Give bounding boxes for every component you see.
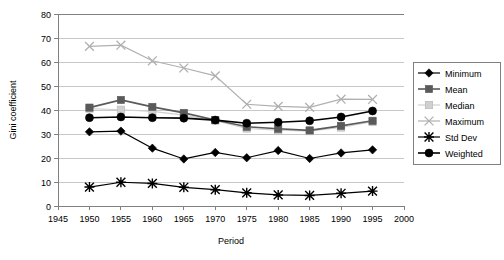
legend-swatch-marker	[425, 149, 433, 157]
x-tick-label: 1975	[237, 214, 257, 224]
marker-circle	[180, 114, 188, 122]
data-point	[336, 188, 346, 198]
legend-swatch-marker	[424, 132, 434, 142]
data-point	[179, 182, 189, 192]
legend-item-label: Std Dev	[445, 133, 478, 143]
marker-diamond	[180, 155, 188, 163]
marker-square	[425, 85, 432, 92]
marker-square	[306, 127, 313, 134]
series-std-dev	[84, 177, 377, 200]
data-point	[117, 96, 124, 103]
x-tick-label: 1985	[300, 214, 320, 224]
x-tick-label: 2000	[394, 214, 414, 224]
data-point	[180, 155, 188, 163]
marker-circle	[85, 114, 93, 122]
legend-item-label: Median	[445, 101, 475, 111]
data-point	[211, 116, 219, 124]
x-tick-label: 1980	[268, 214, 288, 224]
y-tick-label: 0	[46, 202, 51, 212]
data-point	[117, 106, 124, 113]
marker-circle	[337, 113, 345, 121]
x-axis-ticks: 1945195019551960196519701975198019851990…	[48, 206, 414, 224]
data-point	[180, 114, 188, 122]
marker-circle	[243, 119, 251, 127]
data-point	[148, 114, 156, 122]
marker-diamond	[274, 146, 282, 154]
x-axis-title: Period	[218, 236, 244, 246]
y-tick-label: 60	[41, 58, 51, 68]
chart-container: 0102030405060708019451950195519601965197…	[0, 0, 504, 260]
data-point	[368, 186, 378, 196]
marker-star	[305, 190, 315, 200]
marker-star	[336, 188, 346, 198]
x-tick-label: 1950	[79, 214, 99, 224]
y-tick-label: 30	[41, 130, 51, 140]
data-point	[242, 188, 252, 198]
y-gridlines	[58, 14, 404, 206]
marker-circle	[369, 107, 377, 115]
legend-item-label: Maximum	[445, 117, 484, 127]
legend-item-label: Mean	[445, 85, 468, 95]
marker-diamond	[305, 154, 313, 162]
y-tick-label: 40	[41, 106, 51, 116]
data-point	[117, 113, 125, 121]
series-median	[86, 105, 376, 135]
marker-star	[116, 177, 126, 187]
marker-circle	[274, 118, 282, 126]
data-point	[86, 104, 93, 111]
data-point	[274, 118, 282, 126]
x-tick-label: 1990	[331, 214, 351, 224]
data-point	[243, 154, 251, 162]
marker-cross	[179, 64, 188, 73]
x-tick-label: 1960	[142, 214, 162, 224]
marker-circle	[148, 114, 156, 122]
marker-diamond	[211, 148, 219, 156]
y-tick-label: 10	[41, 178, 51, 188]
x-tick-label: 1965	[174, 214, 194, 224]
data-point	[368, 146, 376, 154]
data-point	[337, 113, 345, 121]
data-point	[305, 190, 315, 200]
marker-circle	[425, 149, 433, 157]
x-tick-label: 1945	[48, 214, 68, 224]
marker-square	[86, 104, 93, 111]
x-tick-label: 1970	[205, 214, 225, 224]
marker-circle	[117, 113, 125, 121]
marker-square-light	[425, 101, 432, 108]
data-point	[84, 182, 94, 192]
data-point	[148, 56, 157, 65]
data-point	[369, 117, 376, 124]
data-point	[337, 149, 345, 157]
y-axis-title: Gini coefficient	[8, 80, 18, 139]
series-line	[89, 182, 372, 195]
data-point	[210, 185, 220, 195]
legend-item-median[interactable]: Median	[418, 101, 475, 111]
marker-square	[117, 96, 124, 103]
data-point	[273, 190, 283, 200]
legend-swatch-marker	[425, 85, 432, 92]
marker-diamond	[148, 144, 156, 152]
legend-item-weighted[interactable]: Weighted	[418, 149, 483, 159]
marker-star	[368, 186, 378, 196]
gini-coefficient-line-chart: 0102030405060708019451950195519601965197…	[0, 0, 504, 260]
marker-square-light	[117, 106, 124, 113]
y-tick-label: 20	[41, 154, 51, 164]
marker-square	[337, 122, 344, 129]
marker-star	[84, 182, 94, 192]
data-point	[337, 122, 344, 129]
data-point	[243, 119, 251, 127]
series-line	[89, 45, 372, 107]
marker-star	[210, 185, 220, 195]
data-point	[369, 107, 377, 115]
x-tick-label: 1955	[111, 214, 131, 224]
marker-diamond	[368, 146, 376, 154]
legend-item-label: Weighted	[445, 149, 483, 159]
data-point	[305, 154, 313, 162]
data-point	[148, 144, 156, 152]
data-point	[116, 177, 126, 187]
data-point	[147, 178, 157, 188]
marker-circle	[306, 117, 314, 125]
marker-star	[424, 132, 434, 142]
y-tick-label: 50	[41, 82, 51, 92]
series-line	[89, 100, 372, 130]
